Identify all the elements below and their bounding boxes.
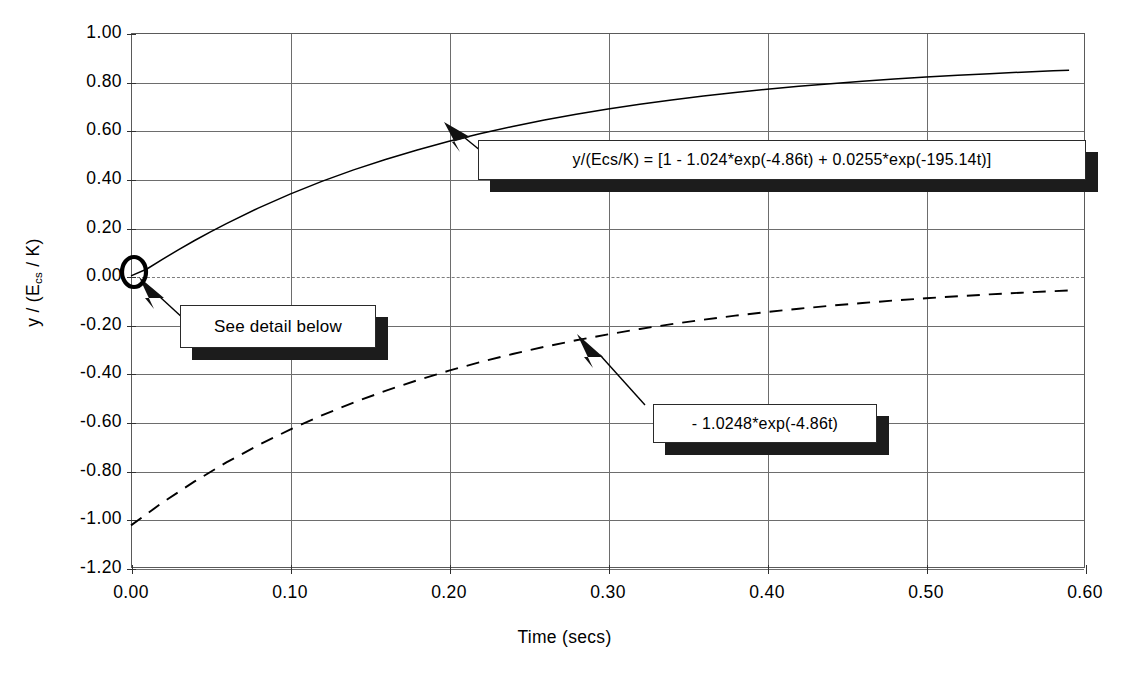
y-tick-label: -0.80: [80, 460, 122, 481]
y-tick-mark: [127, 472, 136, 473]
equation-callout-total-response-text: y/(Ecs/K) = [1 - 1.024*exp(-4.86t) + 0.0…: [478, 140, 1086, 180]
equation-callout-exponential-term-text: - 1.0248*exp(-4.86t): [653, 404, 877, 443]
y-tick-label: 1.00: [86, 22, 122, 43]
y-tick-mark: [127, 83, 136, 84]
x-axis-tick-labels: 0.000.100.200.300.400.500.60: [0, 582, 1129, 612]
y-tick-label: 0.20: [86, 217, 122, 238]
y-tick-label: -0.20: [80, 314, 122, 335]
y-tick-mark: [127, 180, 136, 181]
chart-canvas: 1.000.800.600.400.200.00-0.20-0.40-0.60-…: [0, 0, 1129, 675]
y-tick-label: 0.40: [86, 168, 122, 189]
x-tick-mark: [927, 565, 928, 574]
y-tick-label: -0.40: [80, 362, 122, 383]
x-axis-title: Time (secs): [0, 627, 1129, 648]
gridline-horizontal: [132, 83, 1084, 84]
y-tick-label: -1.20: [80, 557, 122, 578]
equation-callout-exponential-term[interactable]: - 1.0248*exp(-4.86t): [653, 404, 877, 443]
y-axis-tick-labels: 1.000.800.600.400.200.00-0.20-0.40-0.60-…: [0, 0, 122, 675]
gridline-vertical: [927, 34, 928, 567]
x-tick-mark: [768, 565, 769, 574]
equation-callout-total-response[interactable]: y/(Ecs/K) = [1 - 1.024*exp(-4.86t) + 0.0…: [478, 140, 1086, 180]
y-tick-mark: [127, 229, 136, 230]
gridline-vertical: [291, 34, 292, 567]
gridline-vertical: [450, 34, 451, 567]
x-tick-mark: [291, 565, 292, 574]
gridline-horizontal: [132, 472, 1084, 473]
see-detail-below-callout[interactable]: See detail below: [180, 305, 376, 348]
y-axis-title-subscript: cs: [32, 272, 44, 284]
y-tick-mark: [127, 423, 136, 424]
x-tick-label: 0.60: [1067, 582, 1103, 603]
gridline-horizontal: [132, 569, 1084, 570]
x-tick-mark: [609, 565, 610, 574]
plot-area: [131, 33, 1085, 568]
y-tick-label: 0.60: [86, 119, 122, 140]
y-tick-label: 0.00: [86, 265, 122, 286]
gridline-horizontal: [132, 374, 1084, 375]
gridline-vertical: [768, 34, 769, 567]
x-tick-label: 0.30: [590, 582, 626, 603]
x-tick-mark: [1086, 565, 1087, 574]
see-detail-below-callout-text: See detail below: [180, 305, 376, 348]
y-tick-mark: [127, 131, 136, 132]
y-tick-mark: [127, 326, 136, 327]
gridline-horizontal: [132, 131, 1084, 132]
gridline-horizontal: [132, 423, 1084, 424]
x-tick-label: 0.00: [113, 582, 149, 603]
x-tick-mark: [132, 565, 133, 574]
gridline-horizontal: [132, 520, 1084, 521]
y-tick-label: -0.60: [80, 411, 122, 432]
gridline-horizontal: [132, 277, 1084, 278]
y-tick-mark: [127, 520, 136, 521]
y-axis-title-pre: y / (E: [23, 284, 43, 327]
gridline-horizontal: [132, 229, 1084, 230]
x-tick-label: 0.40: [749, 582, 785, 603]
y-tick-label: 0.80: [86, 71, 122, 92]
x-tick-label: 0.10: [272, 582, 308, 603]
x-tick-mark: [450, 565, 451, 574]
x-tick-label: 0.50: [908, 582, 944, 603]
gridline-vertical: [609, 34, 610, 567]
y-axis-title-post: / K): [23, 238, 43, 272]
y-tick-mark: [127, 34, 136, 35]
x-tick-label: 0.20: [431, 582, 467, 603]
y-axis-title: y / (Ecs / K): [23, 173, 44, 393]
y-tick-label: -1.00: [80, 508, 122, 529]
y-tick-mark: [127, 277, 136, 278]
y-tick-mark: [127, 374, 136, 375]
